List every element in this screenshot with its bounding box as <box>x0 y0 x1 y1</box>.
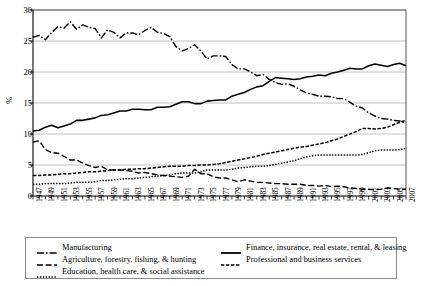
x-tick-label: 1961 <box>123 187 130 202</box>
legend-line-swatch-icon <box>221 255 241 263</box>
x-tick-label: 1965 <box>148 187 155 202</box>
legend-item[interactable]: Manufacturing <box>37 241 205 253</box>
legend-item[interactable]: Agriculture, forestry, fishing, & huntin… <box>37 253 205 265</box>
x-tick-label: 1971 <box>185 187 192 202</box>
x-tick-label: 1953 <box>73 187 80 202</box>
legend-label: Professional and business services <box>246 255 361 264</box>
x-tick-label: 1987 <box>285 187 292 202</box>
legend-label: Education, health care, & social assista… <box>62 267 205 276</box>
legend-label: Agriculture, forestry, fishing, & huntin… <box>62 255 196 264</box>
legend-item[interactable]: Education, health care, & social assista… <box>37 265 205 277</box>
x-tick-label: 1959 <box>111 187 118 202</box>
x-tick-label: 1983 <box>260 187 267 202</box>
line-chart: % 051015202530 1947194919511953195519571… <box>0 0 423 286</box>
x-tick-label: 2007 <box>409 187 416 202</box>
x-tick-label: 2003 <box>384 187 391 202</box>
x-tick-label: 1949 <box>48 187 55 202</box>
x-tick-label: 1979 <box>235 187 242 202</box>
legend-line-swatch-icon <box>37 255 57 263</box>
legend-item[interactable]: Professional and business services <box>221 253 406 265</box>
x-tick-label: 1985 <box>272 187 279 202</box>
x-tick-label: 1977 <box>223 187 230 202</box>
x-axis-ticks: 1947194919511953195519571959196119631965… <box>0 196 423 236</box>
x-tick-label: 1995 <box>334 187 341 202</box>
legend-column-left: ManufacturingAgriculture, forestry, fish… <box>37 241 205 277</box>
x-tick-label: 1973 <box>198 187 205 202</box>
x-tick-label: 1957 <box>98 187 105 202</box>
x-tick-label: 1981 <box>247 187 254 202</box>
legend-line-swatch-icon <box>221 243 241 251</box>
legend-line-swatch-icon <box>37 267 57 275</box>
x-tick-label: 1955 <box>86 187 93 202</box>
x-tick-label: 1997 <box>347 187 354 202</box>
x-tick-label: 1991 <box>310 187 317 202</box>
series-line <box>33 22 406 124</box>
x-tick-label: 2005 <box>397 187 404 202</box>
x-tick-label: 1989 <box>297 187 304 202</box>
x-tick-label: 1993 <box>322 187 329 202</box>
x-tick-label: 2001 <box>372 187 379 202</box>
x-tick-label: 1967 <box>160 187 167 202</box>
x-tick-label: 1947 <box>36 187 43 202</box>
x-tick-label: 1963 <box>135 187 142 202</box>
legend-line-swatch-icon <box>37 243 57 251</box>
x-tick-label: 1975 <box>210 187 217 202</box>
legend-label: Manufacturing <box>62 243 112 252</box>
legend-item[interactable]: Finance, insurance, real estate, rental,… <box>221 241 406 253</box>
legend-column-right: Finance, insurance, real estate, rental,… <box>221 241 406 265</box>
series-line <box>33 63 406 131</box>
x-tick-label: 1999 <box>359 187 366 202</box>
series-line <box>33 120 406 175</box>
x-tick-label: 1951 <box>61 187 68 202</box>
chart-legend: ManufacturingAgriculture, forestry, fish… <box>25 237 397 279</box>
legend-label: Finance, insurance, real estate, rental,… <box>246 243 406 252</box>
x-tick-label: 1969 <box>173 187 180 202</box>
